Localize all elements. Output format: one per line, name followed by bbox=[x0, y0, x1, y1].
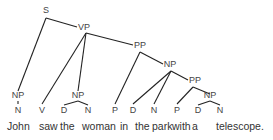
tree-edge-pp2-p2 bbox=[177, 87, 193, 104]
tree-edges bbox=[18, 18, 220, 105]
sentence-word: park bbox=[152, 120, 173, 132]
node-label-d2: D bbox=[130, 105, 137, 115]
node-label-v: V bbox=[39, 105, 45, 115]
sentence-word: a bbox=[192, 120, 198, 132]
node-label-s: S bbox=[43, 5, 49, 15]
sentence-word: John bbox=[7, 120, 30, 132]
sentence-word: the bbox=[60, 120, 75, 132]
sentence-word: saw bbox=[39, 120, 58, 132]
sentence-words: Johnsawthewomanintheparkwithatelescope. bbox=[7, 120, 264, 132]
tree-edge-s-np0 bbox=[18, 18, 46, 91]
node-label-n1: N bbox=[85, 105, 92, 115]
node-label-n2: N bbox=[151, 105, 158, 115]
node-label-np2: NP bbox=[164, 59, 177, 69]
sentence-word: with bbox=[171, 120, 191, 132]
node-label-pp1: PP bbox=[134, 40, 146, 50]
node-label-np3: NP bbox=[204, 90, 217, 100]
tree-edge-vp-np1 bbox=[78, 33, 86, 91]
node-label-np1: NP bbox=[72, 90, 85, 100]
node-label-p2: P bbox=[174, 105, 180, 115]
node-label-n3: N bbox=[217, 105, 224, 115]
sentence-word: woman bbox=[81, 120, 116, 132]
tree-edge-pp1-np2 bbox=[140, 52, 163, 64]
node-label-n0: N bbox=[15, 105, 22, 115]
sentence-word: in bbox=[120, 120, 128, 132]
node-label-pp2: PP bbox=[189, 75, 201, 85]
node-label-d3: D bbox=[195, 105, 202, 115]
tree-edge-np2-pp2 bbox=[171, 71, 188, 80]
tree-edge-np2-n2 bbox=[154, 71, 171, 104]
node-label-p1: P bbox=[112, 105, 118, 115]
tree-edge-np2-d2 bbox=[133, 71, 171, 104]
tree-edge-pp1-p1 bbox=[115, 52, 140, 104]
parse-tree-diagram: SVPPPNPPPNPNPNVNPDNPDNPDN Johnsawthewoma… bbox=[0, 0, 273, 140]
node-label-vp: VP bbox=[78, 22, 90, 32]
node-label-d1: D bbox=[61, 105, 68, 115]
node-label-np0: NP bbox=[12, 90, 25, 100]
tree-edge-vp-pp1 bbox=[86, 33, 133, 45]
sentence-word: the bbox=[135, 120, 150, 132]
tree-edge-s-vp bbox=[46, 18, 77, 27]
sentence-word: telescope. bbox=[216, 120, 264, 132]
